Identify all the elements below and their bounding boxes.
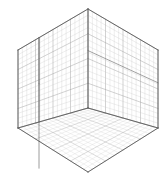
figure-background (0, 0, 166, 185)
isometric-cube-diagram: Isometric wireframe cube Three-dimension… (0, 0, 166, 185)
isometric-figure-container: Isometric wireframe cube Three-dimension… (0, 0, 166, 185)
